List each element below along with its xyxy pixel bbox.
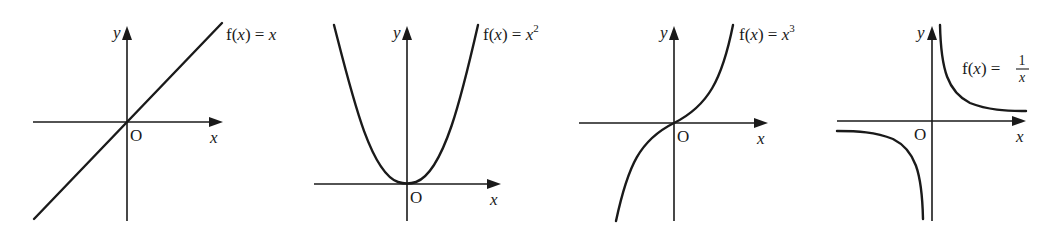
x-axis-label: x [1015,127,1024,146]
graph-linear: y O x f(x) = x [33,23,277,221]
graph-quadratic: y O x f(x) = x2 [314,22,539,221]
curve-linear [34,23,222,219]
equation-label: f(x) = 1 x [962,53,1029,85]
fraction-denominator: x [1018,70,1026,85]
x-axis-arrow-icon [754,118,768,128]
function-graphs-figure: y O x f(x) = x y O x f(x) = x2 y O x f(x… [0,0,1058,251]
curve-quadratic [334,25,478,184]
curve-reciprocal-negative-branch [837,131,923,219]
origin-label: O [914,125,926,144]
y-axis-label: y [658,23,668,42]
x-axis-label: x [489,190,498,209]
origin-label: O [677,127,689,146]
equation-label: f(x) = x3 [739,22,795,44]
x-axis-arrow-icon [1012,116,1026,126]
y-axis-arrow-icon [927,26,937,40]
x-axis-arrow-icon [209,117,223,127]
y-axis-label: y [391,23,401,42]
y-axis-arrow-icon [122,26,132,40]
origin-label: O [410,188,422,207]
graph-reciprocal: y O x f(x) = 1 x [837,23,1029,221]
graph-cubic: y O x f(x) = x3 [579,22,795,221]
x-axis-label: x [756,129,765,148]
x-axis-arrow-icon [487,179,501,189]
x-axis-label: x [209,128,218,147]
equation-label: f(x) = x [226,25,277,44]
svg-text:f(x) =: f(x) = [962,59,1000,78]
y-axis-arrow-icon [669,26,679,40]
equation-label: f(x) = x2 [483,22,539,44]
fraction-numerator: 1 [1019,53,1026,68]
y-axis-arrow-icon [402,26,412,40]
y-axis-label: y [915,23,925,42]
origin-label: O [130,126,142,145]
y-axis-label: y [111,23,121,42]
